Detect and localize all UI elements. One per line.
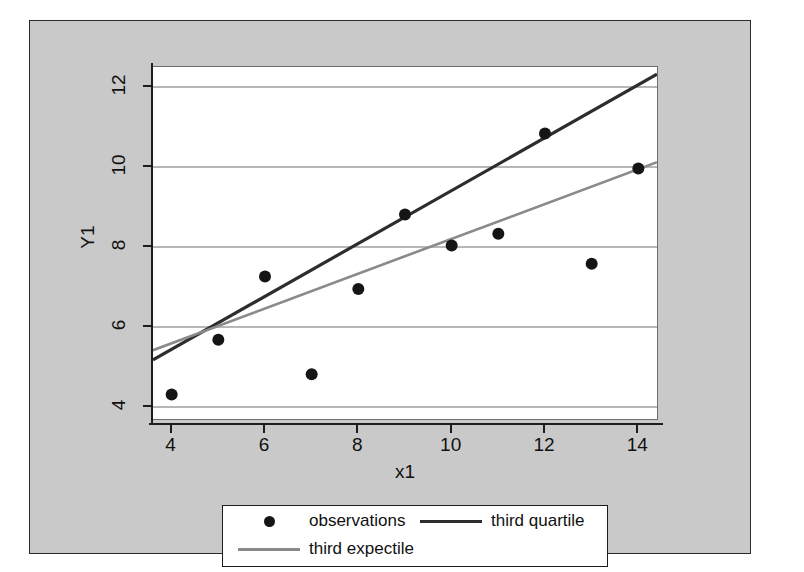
y-tick-label: 6 — [108, 308, 130, 342]
legend-marker-dot-icon — [237, 516, 301, 527]
data-point — [539, 127, 551, 139]
x-axis-spine — [149, 423, 663, 425]
y-tick-mark — [143, 405, 152, 407]
y-tick-label: 8 — [108, 228, 130, 262]
data-point — [492, 228, 504, 240]
legend-item-observations: observations — [237, 511, 405, 531]
data-point — [446, 239, 458, 251]
gridlines — [153, 87, 657, 407]
data-point — [259, 271, 271, 283]
y-tick-mark — [143, 245, 152, 247]
data-point — [352, 283, 364, 295]
x-tick-mark — [450, 424, 452, 433]
y-tick-mark — [143, 325, 152, 327]
x-tick-label: 10 — [431, 434, 471, 456]
series-line-third-expectile — [153, 162, 657, 350]
data-point — [166, 389, 178, 401]
x-tick-mark — [356, 424, 358, 433]
x-tick-mark — [543, 424, 545, 433]
x-tick-mark — [636, 424, 638, 433]
legend-label-observations: observations — [309, 511, 405, 531]
observation-points — [166, 127, 645, 400]
y-axis-title: Y1 — [77, 207, 99, 267]
x-tick-label: 4 — [151, 434, 191, 456]
y-tick-mark — [143, 85, 152, 87]
data-point — [632, 163, 644, 175]
y-tick-label: 4 — [108, 388, 130, 422]
data-point — [306, 368, 318, 380]
y-tick-label: 10 — [108, 148, 130, 182]
data-point — [586, 258, 598, 270]
plot-svg — [153, 67, 657, 419]
x-tick-label: 8 — [337, 434, 377, 456]
x-tick-mark — [170, 424, 172, 433]
y-tick-mark — [143, 165, 152, 167]
x-tick-label: 14 — [617, 434, 657, 456]
legend-label-third-expectile: third expectile — [309, 539, 414, 559]
legend: observations third quartile third expect… — [222, 505, 608, 567]
legend-item-third-expectile: third expectile — [237, 539, 414, 559]
data-point — [399, 209, 411, 221]
legend-line-gray-icon — [237, 548, 301, 551]
x-tick-label: 12 — [524, 434, 564, 456]
chart-figure: 4681012 468101214 x1 Y1 observations thi… — [0, 0, 804, 572]
legend-line-dark-icon — [419, 520, 483, 523]
legend-label-third-quartile: third quartile — [491, 511, 585, 531]
x-axis-title: x1 — [360, 461, 450, 483]
y-axis-spine — [151, 63, 153, 425]
y-tick-label: 12 — [108, 68, 130, 102]
graph-canvas: 4681012 468101214 x1 Y1 observations thi… — [29, 20, 751, 554]
x-tick-label: 6 — [244, 434, 284, 456]
x-tick-mark — [263, 424, 265, 433]
legend-item-third-quartile: third quartile — [419, 511, 585, 531]
plot-area — [152, 66, 658, 420]
data-point — [212, 334, 224, 346]
